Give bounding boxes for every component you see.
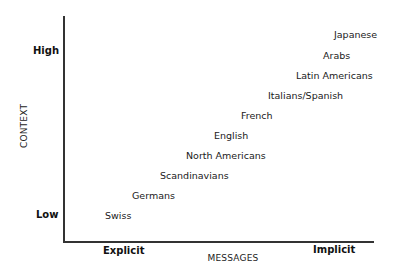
point-label: Germans: [132, 190, 175, 201]
point-label: Arabs: [323, 50, 350, 61]
point-label: Swiss: [105, 210, 131, 221]
x-axis-line: [63, 241, 374, 243]
point-label: Scandinavians: [160, 170, 229, 181]
point-label: Latin Americans: [296, 70, 373, 81]
x-tick-implicit: Implicit: [313, 244, 355, 255]
point-label: Italians/Spanish: [268, 90, 343, 101]
point-label: North Americans: [186, 150, 266, 161]
x-tick-explicit: Explicit: [103, 245, 144, 256]
context-messages-chart: High Low Explicit Implicit CONTEXT MESSA…: [0, 0, 393, 276]
point-label: French: [241, 110, 273, 121]
y-tick-low: Low: [36, 209, 58, 220]
y-axis-line: [63, 16, 65, 243]
y-tick-high: High: [33, 45, 59, 56]
x-axis-title: MESSAGES: [207, 253, 258, 263]
point-label: English: [214, 130, 248, 141]
point-label: Japanese: [334, 29, 377, 40]
y-axis-title: CONTEXT: [19, 104, 29, 148]
